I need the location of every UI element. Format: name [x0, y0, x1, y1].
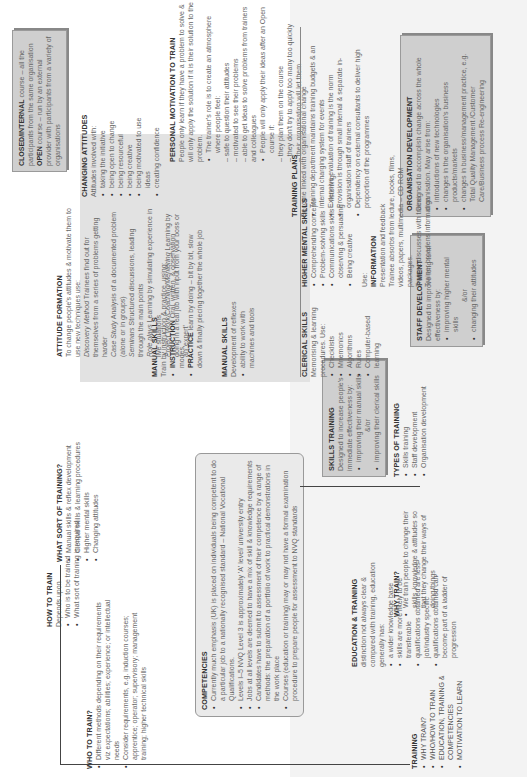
- education-training: EDUCATION & TRAINING distinction not alw…: [350, 557, 458, 667]
- method-label: Role plays: [146, 324, 153, 357]
- manual-skills-development: MANUAL SKILLS Development of reflexes ab…: [220, 297, 256, 377]
- education-training-title: EDUCATION & TRAINING: [350, 557, 359, 667]
- personal-motivation-title: PERSONAL MOTIVATION TO TRAIN: [168, 2, 177, 162]
- connector-line: [300, 27, 301, 377]
- dash-line: – they don't try to apply too many too q…: [285, 2, 294, 162]
- personal-motivation-intro: People only learn if they have a problem…: [177, 2, 204, 162]
- info-line: Trainer broadens information: [423, 147, 432, 287]
- attitude-item: being creative: [125, 107, 134, 188]
- who-to-train-title: WHO TO TRAIN?: [85, 599, 94, 769]
- manual-skills-title: MANUAL SKILLS: [220, 297, 229, 377]
- info-line: Presentation and feedback: [378, 147, 387, 287]
- how-to-train: HOW TO TRAIN Depends upon Who is to be t…: [45, 497, 81, 627]
- dash-line: – they plan them on the course: [276, 2, 285, 162]
- dash-line: – motivated to see their problems: [231, 2, 240, 162]
- competencies-box: COMPETENCIES Currently much emphasis (UK…: [195, 453, 304, 717]
- personal-motivation: PERSONAL MOTIVATION TO TRAIN People only…: [168, 2, 303, 162]
- clerical-item: Algorithms: [345, 297, 354, 368]
- who-item: Different methods depending on their req…: [94, 599, 121, 760]
- types-title: TYPES OF TRAINING: [392, 377, 401, 477]
- attitude-item: taking the initiative: [98, 107, 107, 188]
- types-item: Organisation development: [419, 377, 428, 468]
- types-of-training: TYPES OF TRAINING Skills training Staff …: [392, 377, 428, 477]
- org-dev-item: introductions of new technologies: [432, 41, 441, 202]
- use-label: Use:: [360, 147, 369, 287]
- attitude-item: being resourceful: [116, 107, 125, 188]
- higher-mental-item: Being creative: [345, 147, 354, 278]
- skills-training-title: SKILLS TRAINING: [327, 366, 336, 471]
- method-label: Project Work/Coaching/Mentoring: [164, 252, 171, 357]
- manual-skills-intro: Development of reflexes: [229, 297, 238, 377]
- method-label: Seminars: [128, 327, 135, 357]
- higher-mental-item: Comprehending concepts: [309, 147, 318, 278]
- skills-training-item: improving their clerical skills: [372, 366, 381, 462]
- competency-item: Courses (education or training) may or m…: [281, 460, 299, 701]
- closed-label: CLOSED/INTERNAL: [18, 100, 25, 167]
- attitude-formation-intro: To change people's attitudes & motivate …: [64, 207, 82, 357]
- org-dev-item: changes in business/management practice,…: [459, 41, 486, 202]
- method-label: Discovery Method: [83, 301, 90, 357]
- andor-label: &/or: [460, 241, 469, 332]
- education-training-intro: distinction not always clear & compared …: [359, 557, 386, 667]
- attitude-formation-title: ATTITUDE FORMATION: [55, 207, 64, 357]
- andor-label: &/or: [363, 366, 372, 462]
- types-item: Skills training: [401, 377, 410, 468]
- what-sort-item: Changing attitudes: [91, 432, 100, 553]
- competency-item: Levels I–5 NVQ Level 3 is approximately …: [236, 460, 245, 701]
- closed-open-box: CLOSED/INTERNAL course – all the partici…: [12, 30, 67, 172]
- what-sort-item: Higher mental skills: [82, 432, 91, 553]
- how-item: Who is to be trained: [63, 497, 72, 618]
- types-item: Staff development: [410, 377, 419, 468]
- competency-item: Candidates have to submit to assessment …: [254, 460, 281, 701]
- who-item: Consider requirements, e.g. induction co…: [121, 599, 148, 760]
- personal-motivation-item: The trainer's role is to create an atmos…: [204, 2, 222, 153]
- info-line: Trainee discusses with trainer: [414, 147, 423, 287]
- skills-training-item: improving their manual skills: [354, 366, 363, 462]
- dash-line: – safe to question their attitudes: [222, 2, 231, 162]
- who-to-train: WHO TO TRAIN? Different methods dependin…: [85, 599, 148, 769]
- org-dev-item: changes in the organisation's business p…: [441, 41, 459, 202]
- method-label: Case Study: [110, 321, 117, 357]
- higher-mental-title: HIGHER MENTAL SKILLS: [300, 147, 309, 287]
- skills-training-box: SKILLS TRAINING Designed to increase peo…: [322, 360, 386, 477]
- clerical-item: Rules: [354, 297, 363, 368]
- info-line: Trainee absorbs from lecture, books, fil…: [387, 147, 414, 287]
- attitude-formation: ATTITUDE FORMATION To change people's at…: [55, 207, 190, 357]
- mind-map-page: TRAINING WHY TRAIN? WHO/HOW TO TRAIN EDU…: [0, 0, 527, 777]
- training-root: TRAINING WHY TRAIN? WHO/HOW TO TRAIN EDU…: [410, 649, 464, 769]
- clerical-skills-title: CLERICAL SKILLS: [300, 297, 309, 377]
- staff-development-item: improving higher mental skills: [442, 241, 460, 332]
- how-to-train-title: HOW TO TRAIN: [45, 497, 54, 627]
- dash-line: – able to get ideas to solve problems fr…: [240, 2, 258, 162]
- personal-motivation-item: People will only apply their ideas after…: [258, 2, 276, 153]
- dash-line: – their organisation will let them: [294, 2, 303, 162]
- connector-line: [60, 565, 61, 765]
- competency-item: Jobs at all levels are deemed to have a …: [245, 460, 254, 701]
- education-item: qualifications obtained are less job/ind…: [413, 557, 431, 658]
- how-item: What sort of training is required: [72, 497, 81, 618]
- connector-line: [60, 764, 410, 765]
- manual-skills-item: ability to work with machines and tools: [238, 297, 256, 368]
- attitude-item: being motivated to use ideas: [134, 107, 152, 188]
- changing-attitudes-intro: Attitudes involved with:: [89, 107, 98, 197]
- clerical-item: Mnemonics: [336, 297, 345, 368]
- information-title: INFORMATION: [369, 147, 378, 287]
- education-item: skills are more likely to be transferabl…: [395, 557, 413, 658]
- attitude-item: being open to change: [107, 107, 116, 188]
- education-item: qualifications obtained can become part …: [431, 557, 458, 658]
- how-to-train-intro: Depends upon: [54, 497, 63, 627]
- clerical-skills-intro: Memorising & learning procedures. Use:: [309, 297, 327, 377]
- changing-attitudes: CHANGING ATTITUDES Attitudes involved wi…: [80, 107, 161, 197]
- training-title: TRAINING: [410, 649, 419, 769]
- education-item: a wider knowledge base: [386, 557, 395, 658]
- connector-line: [300, 486, 420, 487]
- clerical-item: Checklists: [327, 297, 336, 368]
- training-list: WHY TRAIN? WHO/HOW TO TRAIN EDUCATION, T…: [419, 649, 464, 769]
- competencies-title: COMPETENCIES: [200, 460, 209, 710]
- higher-mental-item: Communications skills – listening, obser…: [327, 147, 345, 278]
- skills-training-intro: Designed to increase people's immediate …: [336, 366, 354, 471]
- higher-mental-skills: HIGHER MENTAL SKILLS Comprehending conce…: [300, 147, 432, 287]
- clerical-skills: CLERICAL SKILLS Memorising & learning pr…: [300, 297, 381, 377]
- open-label: OPEN: [36, 146, 43, 166]
- higher-mental-item: Problem-solving skills: [318, 147, 327, 278]
